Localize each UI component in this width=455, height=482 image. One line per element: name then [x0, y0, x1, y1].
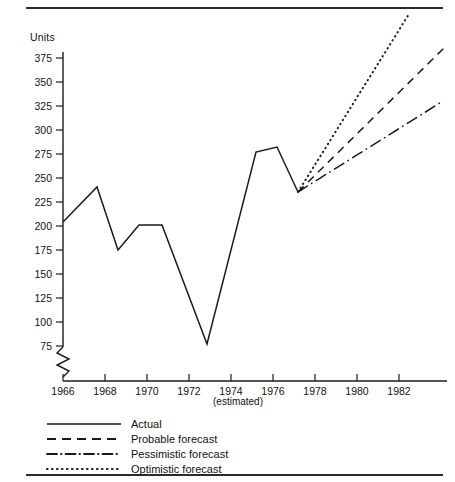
x-tick-label-1970: 1970: [126, 385, 168, 397]
y-tick-label-275: 275: [22, 148, 52, 160]
legend-label-optimistic-forecast: Optimistic forecast: [131, 463, 221, 475]
y-tick-label-300: 300: [22, 124, 52, 136]
legend-swatch-dotted-line: [45, 463, 123, 475]
y-tick-label-200: 200: [22, 220, 52, 232]
x-tick-label-1978: 1978: [294, 385, 336, 397]
y-tick-label-75: 75: [22, 340, 52, 352]
x-axis-estimated-caption: (estimated): [178, 396, 298, 407]
series-line-actual: [63, 147, 298, 344]
y-tick-label-375: 375: [22, 52, 52, 64]
legend-label-probable-forecast: Probable forecast: [131, 433, 217, 445]
y-axis-break-marker: [57, 347, 69, 377]
legend-item-optimistic-forecast: Optimistic forecast: [45, 461, 345, 476]
y-axis-title: Units: [30, 31, 55, 43]
legend-label-pessimistic-forecast: Pessimistic forecast: [131, 448, 228, 460]
y-tick-label-100: 100: [22, 316, 52, 328]
series-line-pessimistic: [298, 101, 443, 192]
legend-item-actual: Actual: [45, 416, 345, 431]
figure-container: Units 375 350 325 300 275 250 225 200 17…: [0, 0, 455, 482]
legend-swatch-solid-line: [45, 418, 123, 430]
y-tick-label-250: 250: [22, 172, 52, 184]
legend-swatch-dash-dot-line: [45, 448, 123, 460]
legend-swatch-dashed-line: [45, 433, 123, 445]
series-line-probable: [298, 47, 445, 192]
x-tick-label-1982: 1982: [378, 385, 420, 397]
y-tick-label-150: 150: [22, 268, 52, 280]
chart-legend: Actual Probable forecast Pessimistic for…: [45, 416, 345, 476]
y-tick-label-175: 175: [22, 244, 52, 256]
x-axis-ticks: [63, 374, 399, 381]
legend-item-probable-forecast: Probable forecast: [45, 431, 345, 446]
x-tick-label-1968: 1968: [84, 385, 126, 397]
y-tick-label-225: 225: [22, 196, 52, 208]
series-line-optimistic: [298, 14, 409, 192]
x-tick-label-1980: 1980: [336, 385, 378, 397]
legend-item-pessimistic-forecast: Pessimistic forecast: [45, 446, 345, 461]
x-tick-label-1966: 1966: [42, 385, 84, 397]
y-tick-label-125: 125: [22, 292, 52, 304]
y-axis-ticks: [56, 58, 63, 346]
y-tick-label-350: 350: [22, 76, 52, 88]
y-tick-label-325: 325: [22, 100, 52, 112]
chart-plot-area: [0, 0, 455, 482]
legend-label-actual: Actual: [131, 418, 162, 430]
